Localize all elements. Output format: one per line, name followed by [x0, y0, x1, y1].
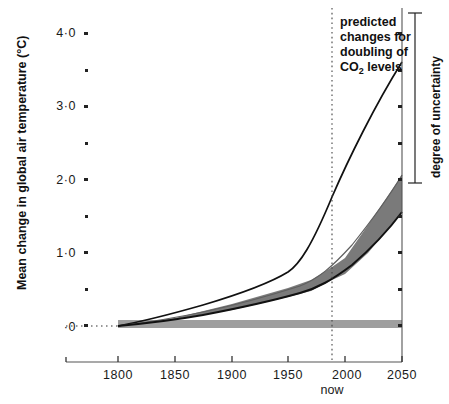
x-tick-label-1850: 1850	[160, 368, 190, 382]
predicted-note-line-3: doubling of	[340, 45, 409, 59]
y-tick-0-5	[85, 288, 88, 291]
x-tick-label-2000: 2000	[332, 368, 362, 382]
y-tick-2-0	[84, 178, 88, 181]
y-axis-tick-marks	[84, 32, 88, 327]
uncertainty-bracket-label: degree of uncertainty	[429, 56, 443, 178]
predicted-note-line-1: predicted	[340, 15, 396, 29]
predicted-note-line-2: changes for	[340, 30, 411, 44]
series-upper-estimate	[118, 62, 402, 326]
y-tick-2-5	[85, 142, 88, 145]
y-tick-1-0	[84, 251, 88, 254]
x-tick-label-2050: 2050	[387, 368, 417, 382]
y-tick-label-1-0: 1·0	[56, 246, 76, 260]
y-tick-label-3-0: 3·0	[56, 99, 76, 113]
x-tick-label-1950: 1950	[273, 368, 303, 382]
now-label: now	[321, 383, 345, 397]
plot-right-inner-ticks	[398, 32, 402, 327]
y-tick-3-0	[84, 105, 88, 108]
x-tick-label-1900: 1900	[217, 368, 247, 382]
x-axis-ticks	[66, 356, 402, 362]
y-tick-1-5	[85, 215, 88, 218]
y-tick-4-0	[84, 32, 88, 35]
y-tick-label-0: ·0	[64, 320, 76, 334]
y-tick-label-2-0: 2·0	[56, 173, 76, 187]
y-tick-3-5	[85, 69, 88, 72]
series-band-lower-edge	[118, 212, 402, 326]
co2-text: CO	[340, 60, 359, 74]
chart-page: 4·0 3·0 2·0 1·0 ·0 1800 1850 1900 1950 2…	[0, 0, 449, 404]
levels-text: levels	[364, 60, 402, 74]
x-tick-label-1800: 1800	[103, 368, 133, 382]
y-tick-label-4-0: 4·0	[56, 26, 76, 40]
predicted-note-line-4: CO2 levels	[340, 60, 402, 76]
climate-projection-chart: 4·0 3·0 2·0 1·0 ·0 1800 1850 1900 1950 2…	[0, 0, 449, 404]
y-tick-0	[84, 324, 88, 327]
y-axis-title: Mean change in global air temperature (°…	[15, 36, 29, 290]
